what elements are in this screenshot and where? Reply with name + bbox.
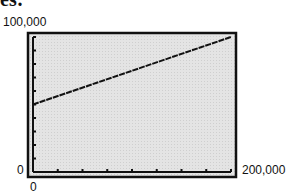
plot-frame [28,33,236,177]
x-min-label: 0 [30,180,37,194]
y-max-label: 100,000 [3,15,46,29]
x-max-label: 200,000 [242,163,285,177]
y-min-label: 0 [17,163,24,177]
